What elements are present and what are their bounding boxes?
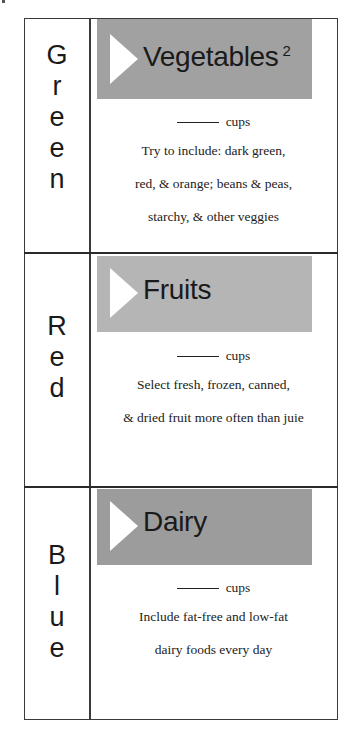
letter: e <box>49 633 64 664</box>
description-line: dairy foods every day <box>91 633 336 666</box>
letter: R <box>47 311 67 342</box>
color-label-red: R e d <box>25 311 89 404</box>
row-divider <box>24 486 338 488</box>
group-title: Fruits <box>143 274 211 306</box>
group-title: Dairy <box>143 506 207 538</box>
vegetables-body: cups Try to include: dark green, red, & … <box>91 112 336 233</box>
letter: u <box>49 602 64 633</box>
description-line: & dried fruit more often than juie <box>91 401 336 434</box>
fruits-header: Fruits <box>97 256 312 332</box>
play-triangle-icon <box>110 268 138 318</box>
scan-artifact <box>2 0 5 3</box>
amount-line: cups <box>91 112 336 132</box>
letter: d <box>49 373 64 404</box>
color-label-green: G r e e n <box>25 40 89 195</box>
amount-blank[interactable] <box>177 588 219 589</box>
footnote-marker: 2 <box>283 42 291 59</box>
vegetables-header: Vegetables2 <box>97 19 312 99</box>
amount-blank[interactable] <box>177 122 219 123</box>
description-line: starchy, & other veggies <box>91 200 336 233</box>
play-triangle-icon <box>110 34 138 84</box>
letter: G <box>46 40 67 71</box>
description-line: Select fresh, frozen, canned, <box>91 368 336 401</box>
amount-line: cups <box>91 346 336 366</box>
letter: B <box>48 540 66 571</box>
description-line: Try to include: dark green, <box>91 134 336 167</box>
description-line: red, & orange; beans & peas, <box>91 167 336 200</box>
row-divider <box>24 252 338 254</box>
letter: e <box>49 102 64 133</box>
letter: e <box>49 342 64 373</box>
dairy-header: Dairy <box>97 489 312 565</box>
description-line: Include fat-free and low-fat <box>91 600 336 633</box>
play-triangle-icon <box>110 501 138 551</box>
amount-blank[interactable] <box>177 356 219 357</box>
letter: l <box>54 571 60 602</box>
dairy-body: cups Include fat-free and low-fat dairy … <box>91 578 336 666</box>
letter: n <box>49 164 64 195</box>
group-title: Vegetables2 <box>143 41 291 73</box>
letter: r <box>53 71 62 102</box>
color-label-blue: B l u e <box>25 540 89 664</box>
amount-line: cups <box>91 578 336 598</box>
fruits-body: cups Select fresh, frozen, canned, & dri… <box>91 346 336 434</box>
letter: e <box>49 133 64 164</box>
